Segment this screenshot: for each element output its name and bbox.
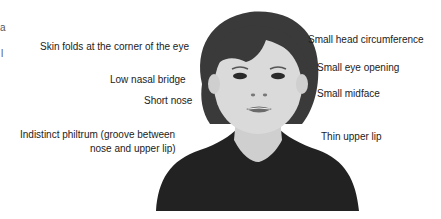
label-skin-folds: Skin folds at the corner of the eye xyxy=(40,41,189,53)
label-small-head-circumference: Small head circumference xyxy=(308,34,424,46)
label-low-nasal-bridge: Low nasal bridge xyxy=(110,74,186,86)
right-ear-shape xyxy=(296,74,308,94)
nostril-shape xyxy=(263,94,267,97)
left-eye-shape xyxy=(233,73,247,79)
label-indistinct-philtrum: Indistinct philtrum (groove between xyxy=(20,129,175,141)
left-ear-shape xyxy=(208,74,220,94)
right-eye-shape xyxy=(271,73,285,79)
cropped-text-fragment: a xyxy=(0,22,6,34)
child-portrait-illustration xyxy=(150,0,365,215)
nostril-shape xyxy=(251,94,255,97)
label-small-midface: Small midface xyxy=(317,88,380,100)
label-small-eye-opening: Small eye opening xyxy=(317,62,399,74)
label-thin-upper-lip: Thin upper lip xyxy=(321,131,382,143)
label-indistinct-philtrum-cont: nose and upper lip) xyxy=(90,143,176,155)
label-short-nose: Short nose xyxy=(144,95,192,107)
facial-features-diagram: a l Skin folds at the corner of the eye … xyxy=(0,0,441,219)
cropped-text-fragment: l xyxy=(1,48,3,60)
